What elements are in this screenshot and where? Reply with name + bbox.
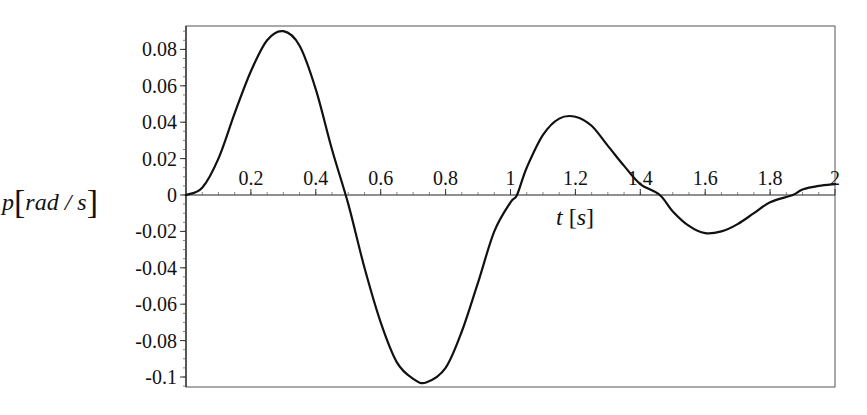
y-axis-label: p[rad / s] — [0, 183, 98, 220]
y-tick-label: 0.04 — [142, 111, 177, 133]
x-axis-var: t — [556, 204, 564, 230]
x-tick-label: 1.4 — [628, 167, 653, 189]
y-tick-label: -0.02 — [135, 220, 177, 242]
x-tick-label: 1.6 — [693, 167, 718, 189]
y-tick-label: -0.06 — [135, 293, 177, 315]
y-tick-label: 0.06 — [142, 75, 177, 97]
y-tick-labels: 0.080.060.040.020-0.02-0.04-0.06-0.08-0.… — [135, 38, 186, 388]
plot-frame — [186, 26, 835, 387]
x-tick-label: 2 — [830, 167, 840, 189]
y-tick-label: -0.1 — [145, 366, 177, 388]
x-tick-label: 0.2 — [238, 167, 263, 189]
y-axis-unit: rad / s — [25, 189, 86, 215]
x-tick-label: 1.2 — [563, 167, 588, 189]
y-tick-label: -0.08 — [135, 330, 177, 352]
x-tick-labels: 0.20.40.60.811.21.41.61.82 — [238, 167, 840, 195]
y-tick-label: 0 — [167, 184, 177, 206]
data-series-line — [186, 31, 835, 383]
x-tick-label: 1 — [506, 167, 516, 189]
x-tick-label: 0.8 — [433, 167, 458, 189]
x-axis-label: t[s] — [556, 204, 594, 230]
y-axis-var: p — [0, 189, 14, 215]
y-tick-label: -0.04 — [135, 257, 177, 279]
y-tick-label: 0.02 — [142, 148, 177, 170]
x-tick-label: 1.8 — [758, 167, 783, 189]
line-chart: 0.080.060.040.020-0.02-0.04-0.06-0.08-0.… — [0, 0, 867, 415]
x-axis-unit: s — [577, 204, 586, 230]
x-tick-label: 0.6 — [368, 167, 393, 189]
y-tick-label: 0.08 — [142, 38, 177, 60]
x-tick-label: 0.4 — [303, 167, 328, 189]
